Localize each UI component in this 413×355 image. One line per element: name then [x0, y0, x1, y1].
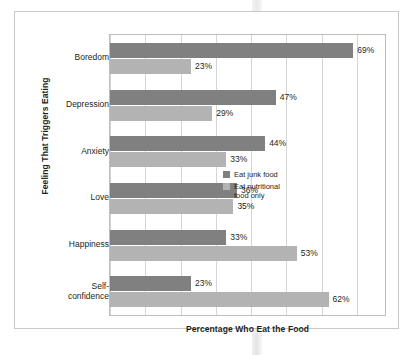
x-axis-title: Percentage Who Eat the Food: [109, 324, 386, 334]
legend-swatch-icon: [223, 171, 230, 178]
gridline-0: [110, 35, 111, 315]
bar-depression-junk: [110, 90, 276, 105]
legend-item-junk-food: Eat junk food: [223, 170, 301, 180]
y-axis-label-self-confidence: Self-confidence: [29, 281, 109, 301]
bar-value-label: 69%: [357, 43, 374, 58]
bar-love-nutri: [110, 199, 233, 214]
legend-label: Eat nutritional food only: [234, 182, 280, 201]
gridline-20: [181, 35, 182, 315]
gridline-60: [322, 35, 323, 315]
gridline-70: [357, 35, 358, 315]
chart-legend: Eat junk foodEat nutritional food only: [223, 170, 301, 203]
page-edge-band-bottom: [252, 334, 261, 355]
y-axis-label-boredom: Boredom: [29, 52, 109, 62]
y-axis-category-labels: BoredomDepressionAnxietyLoveHappinessSel…: [29, 34, 109, 316]
bar-value-label: 62%: [333, 292, 350, 307]
bar-boredom-junk: [110, 43, 353, 58]
bar-value-label: 33%: [230, 230, 247, 245]
bar-anxiety-nutri: [110, 152, 226, 167]
legend-item-nutritional-food: Eat nutritional food only: [223, 182, 301, 201]
bar-value-label: 53%: [301, 246, 318, 261]
legend-swatch-icon: [223, 183, 230, 190]
y-axis-label-depression: Depression: [29, 99, 109, 109]
y-axis-label-love: Love: [29, 192, 109, 202]
bar-value-label: 29%: [216, 106, 233, 121]
bar-value-label: 44%: [269, 136, 286, 151]
legend-label: Eat junk food: [234, 170, 278, 180]
bar-value-label: 23%: [195, 276, 212, 291]
gridline-30: [216, 35, 217, 315]
bar-happiness-nutri: [110, 246, 297, 261]
bar-value-label: 23%: [195, 59, 212, 74]
bar-value-label: 47%: [280, 90, 297, 105]
bar-boredom-nutri: [110, 59, 191, 74]
bar-self-confidence-nutri: [110, 292, 329, 307]
bar-happiness-junk: [110, 230, 226, 245]
bar-love-junk: [110, 183, 237, 198]
bar-depression-nutri: [110, 106, 212, 121]
gridline-10: [145, 35, 146, 315]
bar-anxiety-junk: [110, 136, 265, 151]
chart-figure-frame: Feeling That Triggers Eating BoredomDepr…: [14, 11, 399, 329]
bar-value-label: 33%: [230, 152, 247, 167]
y-axis-label-happiness: Happiness: [29, 239, 109, 249]
bar-self-confidence-junk: [110, 276, 191, 291]
y-axis-label-anxiety: Anxiety: [29, 146, 109, 156]
